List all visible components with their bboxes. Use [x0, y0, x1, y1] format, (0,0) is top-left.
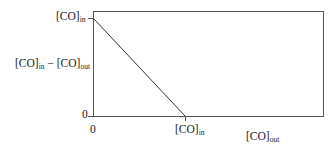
y-tick-label-zero: 0: [82, 109, 88, 121]
x-tick-label-coin: [CO]in: [175, 124, 204, 137]
x-tick-label-zero: 0: [90, 124, 96, 136]
x-axis-label: [CO]out: [246, 131, 279, 144]
data-line: [94, 19, 186, 117]
y-tick-label-top: [CO]in: [56, 11, 85, 24]
plot-frame: [94, 12, 324, 117]
plot-area: [0, 0, 336, 147]
y-axis-label: [CO]in − [CO]out: [15, 58, 90, 71]
